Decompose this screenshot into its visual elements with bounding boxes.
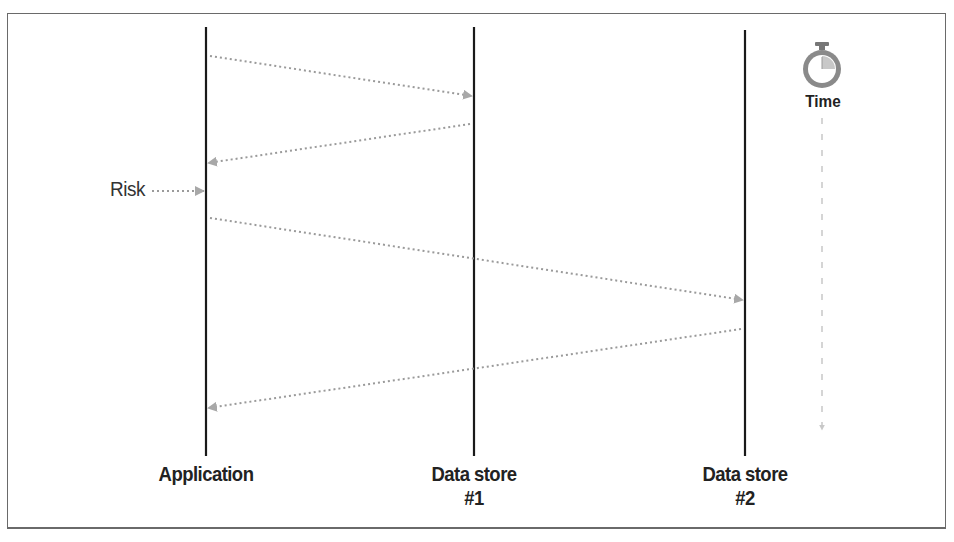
actor-label-datastore2: Data store #2 (657, 462, 833, 510)
message-ds1-to-app (208, 124, 470, 163)
actor-number: #1 (386, 486, 562, 510)
actor-number: #2 (657, 486, 833, 510)
message-app-to-ds1 (210, 56, 472, 96)
message-app-to-ds2 (210, 218, 743, 300)
time-label: Time (801, 92, 846, 112)
actor-name: Data store (657, 462, 833, 486)
actor-name: Application (159, 462, 254, 485)
sequence-diagram (0, 0, 954, 542)
risk-label: Risk (110, 177, 145, 201)
actor-label-datastore1: Data store #1 (386, 462, 562, 510)
stopwatch-icon (803, 42, 841, 88)
actor-label-application: Application (118, 462, 294, 486)
actor-name: Data store (386, 462, 562, 486)
